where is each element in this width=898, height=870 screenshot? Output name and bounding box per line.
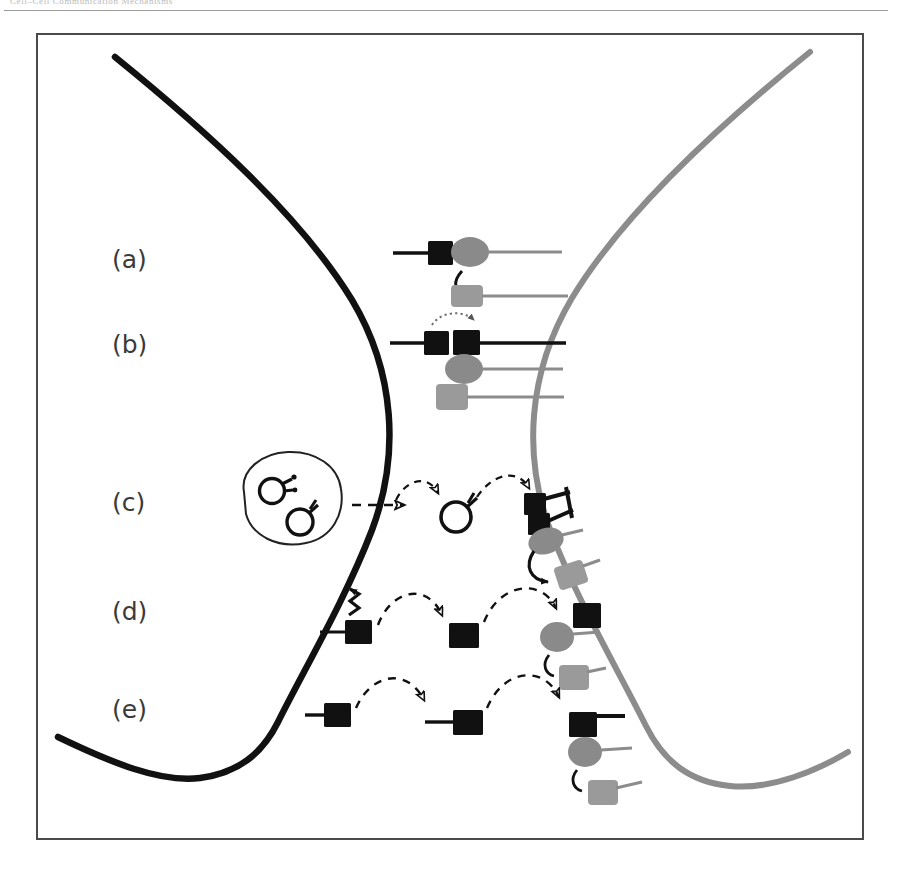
row-d-transduction-arrow	[545, 655, 554, 676]
row-a-receptor-ellipse	[451, 237, 489, 267]
row-d-effector-stalk	[587, 668, 606, 672]
row-label-a: (a)	[112, 245, 147, 274]
row-b-ligand-square-donor	[424, 331, 449, 355]
row-e-diffusion-arc-1	[356, 678, 424, 708]
row-c-transport-arc-2	[477, 476, 529, 497]
row-c-group	[244, 452, 600, 591]
row-label-d: (d)	[112, 597, 147, 626]
row-c-transduction-arrow	[529, 551, 548, 582]
row-label-e: (e)	[112, 695, 147, 724]
figure-page: Cell–Cell Communication Mechanisms	[0, 0, 898, 870]
row-d-group	[320, 588, 606, 690]
row-d-cleavage-zigzag	[349, 589, 359, 615]
row-d-bound-ligand	[573, 603, 601, 628]
row-e-receptor-stalk	[601, 748, 632, 750]
row-c-transport-arc-1	[396, 481, 438, 500]
row-b-group	[390, 313, 566, 410]
row-e-effector-square	[588, 780, 618, 805]
row-c-effector-square	[553, 559, 589, 591]
row-d-receptor-ellipse	[540, 622, 574, 652]
row-d-effector-square	[559, 665, 589, 690]
row-b-effector-square	[436, 384, 468, 410]
row-e-receptor-ellipse	[568, 737, 602, 767]
row-c-effector-stalk	[583, 560, 600, 566]
row-label-b: (b)	[112, 330, 147, 359]
row-c-cargo-vesicle-1	[260, 474, 298, 503]
row-d-tethered-ligand	[345, 620, 372, 644]
row-e-bound-ligand	[569, 712, 597, 737]
row-c-free-vesicle	[441, 493, 477, 532]
row-a-ligand-square	[428, 241, 453, 265]
row-e-diffusion-arc-2	[487, 675, 559, 708]
row-e-effector-stalk	[616, 782, 642, 788]
row-b-transfer-arrow	[432, 313, 474, 325]
row-d-free-ligand	[449, 623, 479, 648]
diagram-canvas	[0, 0, 898, 870]
row-c-receptor-stalk	[562, 530, 583, 535]
row-e-tethered-ligand	[324, 703, 351, 727]
row-e-transduction-arrow	[573, 770, 582, 791]
row-e-group	[305, 675, 642, 805]
row-label-c: (c)	[112, 488, 145, 517]
row-c-cargo-vesicle-2	[287, 500, 318, 535]
row-d-diffusion-arc-2	[484, 588, 556, 622]
signaling-cell-membrane	[58, 57, 389, 779]
row-d-receptor-stalk	[573, 632, 600, 634]
row-d-diffusion-arc-1	[378, 594, 442, 625]
row-e-free-ligand	[453, 710, 483, 735]
row-a-group	[393, 237, 568, 307]
row-b-receptor-ellipse	[445, 354, 483, 384]
row-a-effector-square	[451, 285, 483, 307]
row-b-ligand-square-acceptor	[453, 330, 480, 355]
